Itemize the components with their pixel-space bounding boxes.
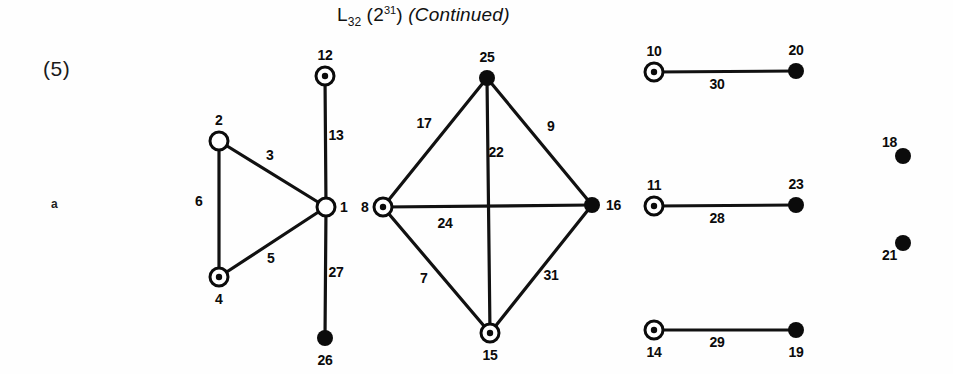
edge-label-13: 13 bbox=[329, 128, 344, 142]
graph-node[interactable] bbox=[788, 197, 804, 213]
node-center-dot bbox=[380, 204, 386, 210]
edge-label-17: 17 bbox=[417, 116, 432, 130]
edge-label-6: 6 bbox=[195, 194, 203, 208]
node-label-21: 21 bbox=[882, 248, 897, 262]
node-disc-filled bbox=[479, 70, 495, 86]
edge-label-27: 27 bbox=[329, 265, 344, 279]
node-label-20: 20 bbox=[789, 43, 804, 57]
graph-node[interactable] bbox=[788, 322, 804, 338]
graph-edge bbox=[383, 205, 592, 207]
node-disc-filled bbox=[895, 148, 911, 164]
graph-node[interactable] bbox=[481, 324, 499, 342]
node-label-1: 1 bbox=[340, 200, 348, 214]
node-label-16: 16 bbox=[606, 198, 621, 212]
node-label-15: 15 bbox=[483, 348, 498, 362]
node-label-14: 14 bbox=[647, 345, 662, 359]
node-center-dot bbox=[651, 327, 657, 333]
edge-label-5: 5 bbox=[267, 251, 275, 265]
node-disc-filled bbox=[317, 330, 333, 346]
edge-label-22: 22 bbox=[489, 145, 504, 159]
graph-node[interactable] bbox=[645, 63, 663, 81]
graph-edge bbox=[219, 207, 326, 277]
node-label-4: 4 bbox=[215, 292, 223, 306]
node-circle-outline bbox=[210, 132, 228, 150]
node-disc-filled bbox=[895, 235, 911, 251]
graph-node[interactable] bbox=[316, 67, 334, 85]
graph-node[interactable] bbox=[895, 235, 911, 251]
node-label-26: 26 bbox=[318, 353, 333, 367]
graph-node[interactable] bbox=[645, 197, 663, 215]
graph-node[interactable] bbox=[895, 148, 911, 164]
node-center-dot bbox=[216, 274, 222, 280]
node-disc-filled bbox=[584, 197, 600, 213]
node-label-2: 2 bbox=[215, 113, 223, 127]
graph-node[interactable] bbox=[210, 132, 228, 150]
graph-edge bbox=[325, 207, 326, 338]
graph-edge bbox=[490, 205, 592, 333]
edge-label-7: 7 bbox=[420, 271, 428, 285]
node-center-dot bbox=[651, 69, 657, 75]
figure-page: L32 (231) (Continued) (5) a 241122682516… bbox=[0, 0, 953, 374]
graph-edge bbox=[325, 76, 326, 207]
graph-node[interactable] bbox=[317, 330, 333, 346]
edge-label-28: 28 bbox=[710, 211, 725, 225]
node-label-25: 25 bbox=[480, 50, 495, 64]
graph-node[interactable] bbox=[374, 198, 392, 216]
graph-node[interactable] bbox=[317, 198, 335, 216]
node-label-10: 10 bbox=[647, 44, 662, 58]
edge-label-9: 9 bbox=[547, 119, 555, 133]
graph-node[interactable] bbox=[479, 70, 495, 86]
edge-label-30: 30 bbox=[710, 77, 725, 91]
node-label-23: 23 bbox=[789, 177, 804, 191]
node-center-dot bbox=[487, 330, 493, 336]
node-center-dot bbox=[651, 203, 657, 209]
graph-node[interactable] bbox=[645, 321, 663, 339]
node-disc-filled bbox=[788, 63, 804, 79]
graph-node[interactable] bbox=[788, 63, 804, 79]
node-circle-outline bbox=[317, 198, 335, 216]
graph-edge bbox=[654, 205, 796, 206]
graph-canvas bbox=[0, 0, 953, 374]
node-disc-filled bbox=[788, 197, 804, 213]
node-label-18: 18 bbox=[882, 135, 897, 149]
node-disc-filled bbox=[788, 322, 804, 338]
edge-label-29: 29 bbox=[710, 335, 725, 349]
graph-edge bbox=[383, 207, 490, 333]
node-label-19: 19 bbox=[789, 345, 804, 359]
graph-edge bbox=[654, 71, 796, 72]
node-center-dot bbox=[322, 73, 328, 79]
node-label-8: 8 bbox=[361, 200, 369, 214]
edge-label-31: 31 bbox=[544, 268, 559, 282]
graph-node[interactable] bbox=[210, 268, 228, 286]
graph-node[interactable] bbox=[584, 197, 600, 213]
graph-edge bbox=[383, 78, 487, 207]
edge-label-3: 3 bbox=[266, 148, 274, 162]
edge-label-24: 24 bbox=[438, 216, 453, 230]
graph-edge bbox=[487, 78, 592, 205]
node-label-11: 11 bbox=[647, 178, 661, 192]
node-label-12: 12 bbox=[318, 48, 333, 62]
